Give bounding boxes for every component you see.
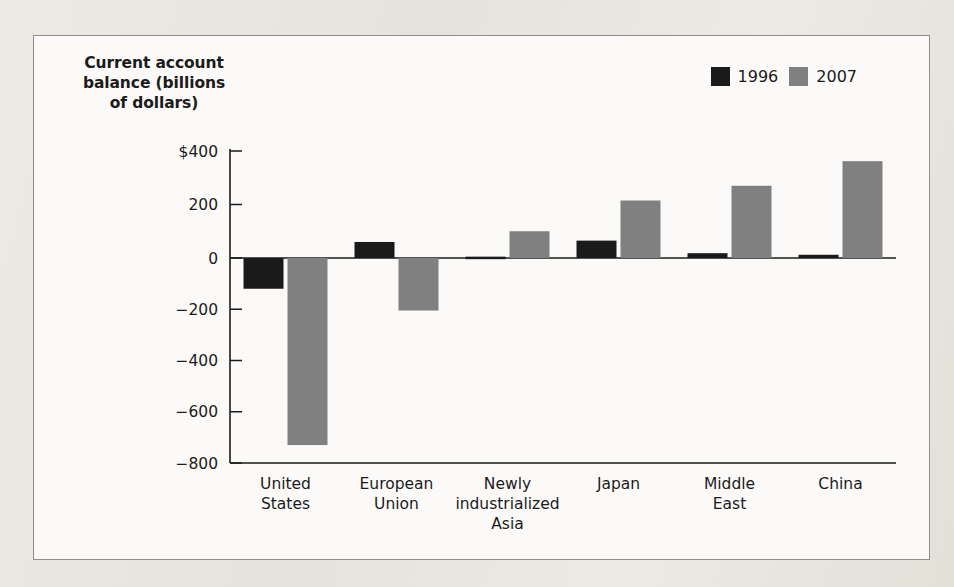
bar-2007-5 — [843, 161, 883, 258]
bar-2007-4 — [732, 186, 772, 258]
x-axis-category-label: Union — [374, 495, 419, 513]
bar-2007-2 — [510, 231, 550, 258]
x-axis-category-label: Asia — [491, 515, 523, 533]
bar-2007-1 — [399, 258, 439, 311]
plot-area: $4002000−200−400−600−800UnitedStatesEuro… — [34, 36, 929, 559]
bar-2007-0 — [288, 258, 328, 445]
x-axis-category-label: Japan — [596, 475, 640, 493]
bar-1996-4 — [688, 253, 728, 258]
y-axis-tick-label: 200 — [188, 196, 218, 214]
bar-1996-0 — [244, 258, 284, 289]
y-axis-tick-label: $400 — [179, 143, 218, 161]
bar-1996-3 — [577, 241, 617, 258]
bar-1996-1 — [355, 242, 395, 258]
x-axis-category-label: European — [360, 475, 434, 493]
x-axis-category-label: States — [261, 495, 310, 513]
bar-2007-3 — [621, 200, 661, 258]
x-axis-category-label: Newly — [484, 475, 531, 493]
bar-chart-svg: $4002000−200−400−600−800UnitedStatesEuro… — [34, 36, 931, 561]
bar-1996-5 — [799, 255, 839, 258]
y-axis-tick-label: −200 — [175, 301, 218, 319]
chart-figure-frame: Current account balance (billions of dol… — [33, 35, 930, 560]
y-axis-tick-label: −400 — [175, 352, 218, 370]
y-axis-tick-label: −800 — [175, 455, 218, 473]
bar-1996-2 — [466, 257, 506, 260]
x-axis-category-label: China — [818, 475, 862, 493]
x-axis-category-label: industrialized — [455, 495, 559, 513]
x-axis-category-label: United — [260, 475, 311, 493]
x-axis-category-label: Middle — [704, 475, 755, 493]
x-axis-category-label: East — [713, 495, 746, 513]
y-axis-tick-label: 0 — [208, 250, 218, 268]
y-axis-tick-label: −600 — [175, 403, 218, 421]
